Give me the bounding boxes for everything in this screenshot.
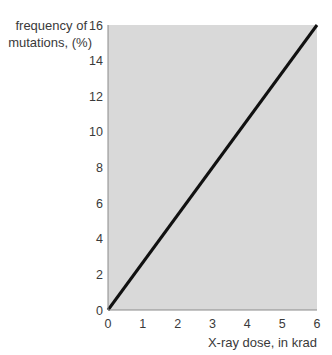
x-tick-label: 6: [314, 317, 321, 331]
x-axis-ticks: 0123456: [105, 317, 321, 331]
y-axis-ticks: 0246810121416: [89, 19, 103, 318]
y-tick-label: 14: [89, 54, 103, 68]
x-tick-label: 0: [105, 317, 112, 331]
y-tick-label: 8: [96, 161, 103, 175]
y-tick-label: 2: [96, 268, 103, 282]
chart: 0246810121416 0123456 frequency of mutat…: [0, 0, 332, 355]
x-tick-label: 2: [174, 317, 181, 331]
x-tick-label: 5: [279, 317, 286, 331]
y-tick-label: 12: [89, 90, 103, 104]
x-axis-label: X-ray dose, in krad: [208, 335, 317, 350]
y-tick-label: 6: [96, 197, 103, 211]
y-tick-label: 0: [96, 304, 103, 318]
y-axis-label-line-1: frequency of: [15, 18, 87, 33]
y-tick-label: 4: [96, 232, 103, 246]
x-tick-label: 4: [244, 317, 251, 331]
y-tick-label: 16: [89, 19, 103, 33]
y-axis-label-line-2: mutations, (%): [8, 35, 92, 50]
x-tick-label: 3: [209, 317, 216, 331]
y-tick-label: 10: [89, 125, 103, 139]
x-tick-label: 1: [139, 317, 146, 331]
